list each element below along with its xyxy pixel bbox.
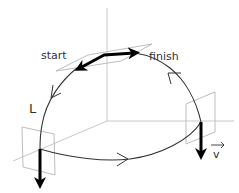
finish-label: finish [149, 50, 179, 63]
tangent-planes [22, 44, 215, 175]
direction-chevrons [51, 73, 181, 166]
right-arc [135, 53, 201, 122]
closed-path-curve [40, 53, 201, 160]
start-label: start [41, 49, 67, 62]
path-label-L: L [29, 101, 37, 116]
closed-path-diagram: start finish L v [0, 0, 239, 193]
left-arc [40, 68, 77, 149]
velocity-label: v [213, 148, 220, 161]
top-plane [56, 44, 152, 71]
bottom-arc [40, 122, 201, 160]
depth-axis [13, 121, 107, 161]
right-arc-chevron [168, 73, 181, 84]
